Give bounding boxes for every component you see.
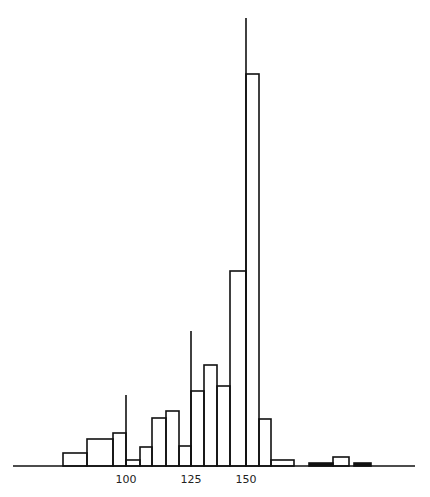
- histogram-bin: [126, 460, 140, 466]
- histogram-bin: [259, 419, 271, 466]
- x-tick-label: 125: [181, 473, 202, 486]
- histogram-bins: [63, 74, 371, 466]
- histogram-bin: [191, 391, 204, 466]
- histogram-bin: [204, 365, 217, 466]
- x-tick-label: 150: [236, 473, 257, 486]
- histogram-bin: [63, 453, 87, 466]
- histogram-bin: [87, 439, 113, 466]
- histogram-bin: [113, 433, 126, 466]
- histogram-bin: [166, 411, 179, 466]
- histogram-bin: [179, 446, 191, 466]
- histogram-bin: [217, 386, 230, 466]
- histogram-bin: [230, 271, 246, 466]
- histogram-bin: [140, 447, 152, 466]
- x-tick-label: 100: [116, 473, 137, 486]
- histogram-bin: [246, 74, 259, 466]
- histogram-bin: [333, 457, 349, 466]
- histogram-bin: [152, 418, 166, 466]
- histogram-bin: [271, 460, 294, 466]
- histogram-chart: 100125150: [0, 0, 430, 497]
- x-tick-labels: 100125150: [116, 473, 257, 486]
- tick-marker-lines: [126, 18, 246, 466]
